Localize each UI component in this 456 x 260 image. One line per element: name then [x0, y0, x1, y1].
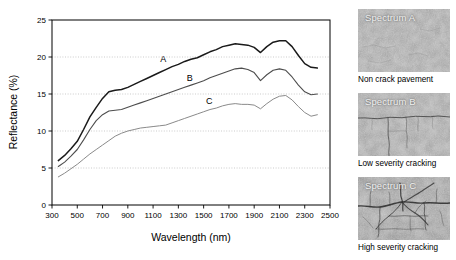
- x-tick-label: 900: [121, 211, 135, 220]
- photo-title-spectrum-a: Spectrum A: [365, 12, 415, 23]
- photo-image-spectrum-a: Spectrum A: [358, 9, 450, 72]
- chart-panel: 3005007009001100130015001700190021002300…: [0, 0, 345, 260]
- photo-block-spectrum-a: Spectrum A Non crack pavement: [358, 9, 450, 86]
- x-tick-label: 1100: [144, 211, 162, 220]
- x-tick-label: 1900: [245, 211, 263, 220]
- y-tick-label: 5: [42, 164, 47, 173]
- x-tick-label: 1500: [195, 211, 213, 220]
- y-axis-ticks: 0510152025: [37, 16, 52, 210]
- y-axis-title: Reflectance (%): [7, 75, 19, 150]
- x-tick-label: 1700: [220, 211, 238, 220]
- curve-label-c: C: [206, 96, 213, 106]
- x-axis-title: Wavelength (nm): [151, 231, 231, 243]
- x-tick-label: 2100: [271, 211, 289, 220]
- curve-label-b: B: [187, 73, 193, 83]
- x-tick-label: 500: [71, 211, 85, 220]
- figure-spectra-and-pavement-photos: 3005007009001100130015001700190021002300…: [0, 0, 456, 260]
- photo-title-spectrum-b: Spectrum B: [365, 96, 416, 107]
- photo-image-spectrum-b: Spectrum B: [358, 93, 450, 156]
- curve-label-a: A: [160, 54, 166, 64]
- pavement-photo-panel: Spectrum A Non crack pavement: [352, 0, 456, 260]
- photo-block-spectrum-c: Spectrum C High severity cracking: [358, 177, 450, 254]
- photo-caption-spectrum-c: High severity cracking: [358, 242, 450, 254]
- photo-image-spectrum-c: Spectrum C: [358, 177, 450, 240]
- x-tick-label: 2500: [321, 211, 339, 220]
- x-tick-label: 1300: [169, 211, 187, 220]
- x-axis-ticks: 3005007009001100130015001700190021002300…: [45, 205, 339, 220]
- y-tick-label: 15: [37, 90, 46, 99]
- photo-title-spectrum-c: Spectrum C: [365, 180, 416, 191]
- x-tick-label: 300: [45, 211, 59, 220]
- y-tick-label: 0: [42, 201, 47, 210]
- photo-caption-spectrum-a: Non crack pavement: [358, 74, 450, 86]
- y-tick-label: 20: [37, 53, 46, 62]
- photo-caption-spectrum-b: Low severity cracking: [358, 158, 450, 170]
- photo-block-spectrum-b: Spectrum B Low severity cracking: [358, 93, 450, 170]
- reflectance-spectra-chart: 3005007009001100130015001700190021002300…: [0, 0, 345, 260]
- y-tick-label: 25: [37, 16, 46, 25]
- x-tick-label: 2300: [296, 211, 314, 220]
- y-tick-label: 10: [37, 127, 46, 136]
- x-tick-label: 700: [96, 211, 110, 220]
